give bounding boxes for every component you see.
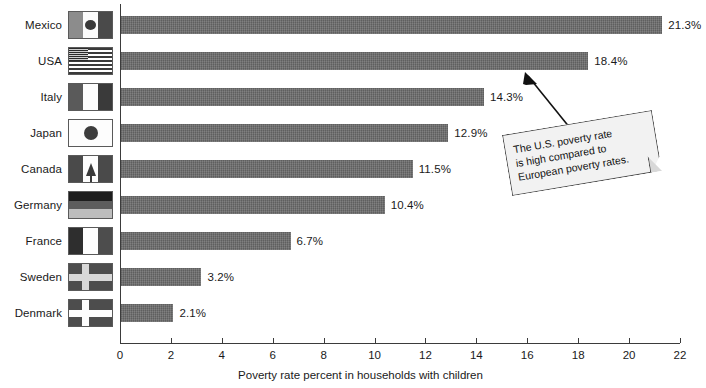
chart-row: Sweden3.2% bbox=[0, 259, 701, 295]
flag-japan-icon bbox=[68, 119, 113, 147]
category-label-mexico: Mexico bbox=[0, 19, 62, 31]
x-tick bbox=[425, 338, 426, 343]
bar-value-denmark: 2.1% bbox=[179, 307, 206, 319]
x-tick-label: 14 bbox=[470, 349, 483, 361]
flag-france-icon bbox=[68, 227, 113, 255]
bar-value-japan: 12.9% bbox=[454, 127, 487, 139]
chart-row: Mexico21.3% bbox=[0, 7, 701, 43]
x-tick-label: 4 bbox=[219, 349, 225, 361]
x-tick bbox=[120, 338, 121, 343]
x-tick-label: 18 bbox=[572, 349, 585, 361]
x-tick-label: 10 bbox=[368, 349, 381, 361]
bar-italy bbox=[120, 88, 484, 106]
category-label-france: France bbox=[0, 235, 62, 247]
bar-canada bbox=[120, 160, 413, 178]
x-tick bbox=[629, 338, 630, 343]
chart-row: Germany10.4% bbox=[0, 187, 701, 223]
bar-mexico bbox=[120, 16, 662, 34]
x-tick-label: 16 bbox=[521, 349, 534, 361]
x-tick-label: 0 bbox=[117, 349, 123, 361]
x-tick bbox=[324, 338, 325, 343]
flag-usa-icon bbox=[68, 47, 113, 75]
bar-denmark bbox=[120, 304, 173, 322]
flag-canada-icon bbox=[68, 155, 113, 183]
x-tick bbox=[375, 338, 376, 343]
x-tick-label: 6 bbox=[270, 349, 276, 361]
y-axis-line bbox=[120, 4, 121, 343]
bar-value-germany: 10.4% bbox=[391, 199, 424, 211]
category-label-canada: Canada bbox=[0, 163, 62, 175]
flag-germany-icon bbox=[68, 191, 113, 219]
bar-japan bbox=[120, 124, 448, 142]
x-tick bbox=[222, 338, 223, 343]
x-tick-label: 12 bbox=[419, 349, 432, 361]
chart-row: Denmark2.1% bbox=[0, 295, 701, 331]
category-label-denmark: Denmark bbox=[0, 307, 62, 319]
category-label-usa: USA bbox=[0, 55, 62, 67]
x-tick bbox=[476, 338, 477, 343]
flag-denmark-icon bbox=[68, 299, 113, 327]
category-label-germany: Germany bbox=[0, 199, 62, 211]
x-tick bbox=[527, 338, 528, 343]
x-axis-line bbox=[120, 343, 680, 344]
bar-value-france: 6.7% bbox=[297, 235, 324, 247]
x-tick bbox=[171, 338, 172, 343]
bar-france bbox=[120, 232, 291, 250]
bar-value-canada: 11.5% bbox=[419, 163, 451, 175]
category-label-italy: Italy bbox=[0, 91, 62, 103]
category-label-sweden: Sweden bbox=[0, 271, 62, 283]
x-tick bbox=[578, 338, 579, 343]
category-label-japan: Japan bbox=[0, 127, 62, 139]
flag-sweden-icon bbox=[68, 263, 113, 291]
x-tick-label: 8 bbox=[320, 349, 326, 361]
x-tick bbox=[680, 338, 681, 343]
chart-row: France6.7% bbox=[0, 223, 701, 259]
bar-value-mexico: 21.3% bbox=[668, 19, 701, 31]
flag-mexico-icon bbox=[68, 11, 113, 39]
x-axis-title: Poverty rate percent in households with … bbox=[10, 369, 706, 381]
x-tick-label: 20 bbox=[623, 349, 636, 361]
bar-value-sweden: 3.2% bbox=[207, 271, 234, 283]
x-tick bbox=[273, 338, 274, 343]
x-tick-label: 2 bbox=[168, 349, 174, 361]
bar-sweden bbox=[120, 268, 201, 286]
flag-italy-icon bbox=[68, 83, 113, 111]
x-tick-label: 22 bbox=[674, 349, 687, 361]
bar-germany bbox=[120, 196, 385, 214]
